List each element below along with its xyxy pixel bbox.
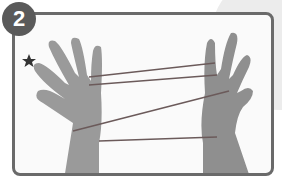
hands-string-photo	[15, 15, 274, 176]
step-number-badge: 2	[2, 2, 36, 36]
right-hand	[201, 33, 253, 176]
star-icon	[22, 54, 36, 67]
illustration-frame	[12, 12, 274, 176]
left-hand	[34, 38, 102, 176]
